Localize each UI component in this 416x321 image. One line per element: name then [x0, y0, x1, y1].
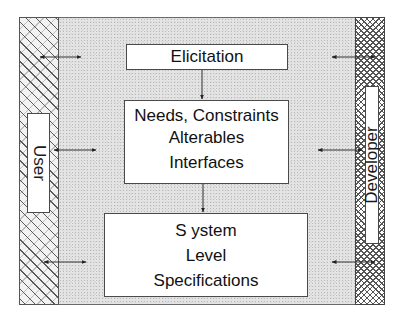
needs-line-1: Needs, Constraints: [125, 105, 288, 127]
needs-line-3: Interfaces: [125, 152, 288, 174]
elicitation-label: Elicitation: [127, 45, 287, 69]
system-line-1: S ystem: [105, 218, 307, 243]
needs-line-2: Alterables: [125, 127, 288, 149]
system-line-3: Specifications: [105, 268, 307, 293]
developer-actor-box: Developer: [365, 86, 379, 244]
elicitation-box: Elicitation: [126, 44, 288, 70]
user-actor-box: User: [27, 113, 50, 213]
system-line-2: Level: [105, 243, 307, 268]
user-label: User: [29, 145, 49, 181]
developer-label: Developer: [362, 126, 382, 204]
needs-box: Needs, Constraints Alterables Interfaces: [124, 100, 289, 184]
system-spec-box: S ystem Level Specifications: [104, 213, 308, 297]
